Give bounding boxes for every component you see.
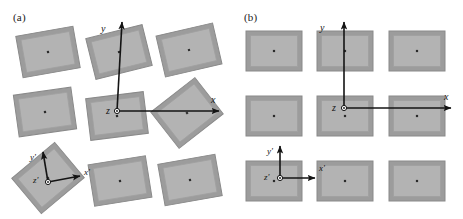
panel-a-local-origin-dot <box>47 181 49 183</box>
panel-a-global-y-axis-label: y <box>100 23 106 34</box>
grain-rect <box>389 96 445 136</box>
panel-a-global-z-axis-label: z <box>105 105 110 116</box>
panel-b-local-z-axis-label: z' <box>263 172 271 182</box>
grain-rect <box>13 87 76 137</box>
grain-center-dot <box>273 50 275 52</box>
panel-b-local-y-axis-label: y' <box>266 146 274 156</box>
grain-group-a <box>12 23 223 214</box>
panel-a-local-x-axis-label: x' <box>83 167 91 177</box>
grain-group-b <box>246 31 445 201</box>
panel-b: (b) yxzy'x'z' <box>231 0 463 219</box>
panel-b-global-x-axis-label: x <box>443 91 449 102</box>
grain-rect <box>317 96 373 136</box>
panel-b-local-origin-dot <box>279 177 281 179</box>
grain-center-dot <box>273 180 275 182</box>
grain-center-dot <box>44 111 46 113</box>
grain-rect <box>151 78 223 149</box>
panel-a-global-origin-dot <box>116 110 118 112</box>
panel-b-global-origin-dot <box>343 107 345 109</box>
grain-center-dot <box>47 51 50 54</box>
grain-rect <box>88 156 152 207</box>
grain-rect <box>246 96 302 136</box>
grain-center-dot <box>416 50 418 52</box>
panel-a-global-x-axis-label: x <box>210 94 216 105</box>
grain-rect <box>317 31 373 71</box>
grain-center-dot <box>273 115 275 117</box>
grain-center-dot <box>344 115 346 117</box>
panel-a-local-y-axis-label: y' <box>29 152 37 162</box>
panel-b-local-x-axis-label: x' <box>318 163 326 173</box>
grain-rect <box>389 31 445 71</box>
panel-a-local-z-axis-label: z' <box>32 175 40 185</box>
grain-rect <box>158 154 222 205</box>
grain-center-dot <box>116 115 118 117</box>
grain-center-dot <box>119 180 122 183</box>
grain-rect <box>317 161 373 201</box>
grain-center-dot <box>416 115 418 117</box>
panel-b-global-y-axis-label: y <box>319 22 325 33</box>
grain-rect <box>16 26 80 77</box>
grain-center-dot <box>416 180 418 182</box>
panel-b-canvas: yxzy'x'z' <box>231 0 463 219</box>
panel-a-canvas: yxzy'x'z' <box>0 0 232 219</box>
grain-center-dot <box>189 179 192 182</box>
grain-rect <box>246 161 302 201</box>
grain-rect <box>389 161 445 201</box>
grain-rect <box>156 23 222 77</box>
grain-rect <box>246 31 302 71</box>
figure-root: (a) yxzy'x'z' (b) yxzy'x'z' <box>0 0 463 219</box>
panel-a: (a) yxzy'x'z' <box>0 0 232 219</box>
panel-b-global-z-axis-label: z <box>331 102 336 113</box>
grain-center-dot <box>344 180 346 182</box>
